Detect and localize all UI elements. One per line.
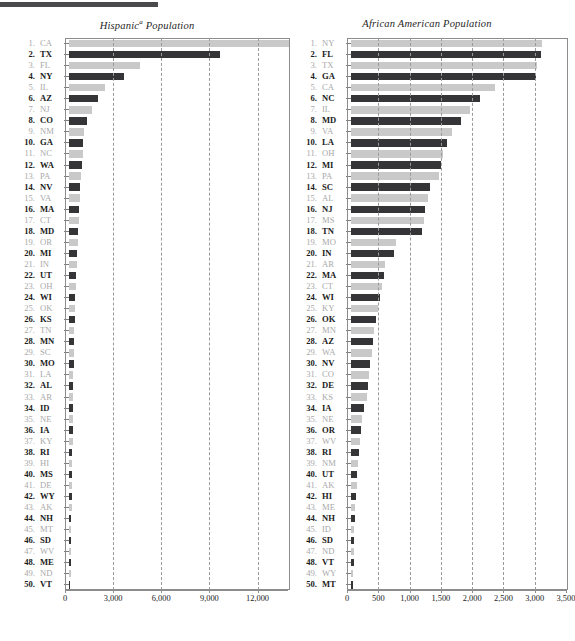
bar-row-rank: 45. — [301, 525, 317, 534]
bar-row-rank: 33. — [301, 393, 317, 402]
bar-row: 35.NE — [288, 414, 566, 425]
bar-row-rank: 7. — [19, 105, 35, 114]
bar-cell — [69, 579, 288, 590]
bar — [351, 493, 356, 500]
bar-row-label: 37.KY — [6, 437, 64, 446]
bar-row-state: MA — [35, 205, 60, 214]
bar-row-rank: 11. — [19, 149, 35, 158]
bar-cell — [351, 126, 566, 137]
bar-row-rank: 11. — [301, 149, 317, 158]
bar-cell — [351, 137, 566, 148]
bar-row-rank: 22. — [301, 271, 317, 280]
bar-row-state: HI — [35, 459, 60, 468]
bar-row: 10.LA — [288, 137, 566, 148]
bar — [69, 194, 80, 201]
bar-row-state: VA — [35, 194, 60, 203]
bar-row-label: 14.NV — [6, 183, 64, 192]
bar — [69, 559, 71, 566]
bar-row-label: 49.WY — [288, 569, 346, 578]
bar-row-rank: 24. — [19, 293, 35, 302]
bar-cell — [69, 115, 288, 126]
bar-row-rank: 48. — [301, 558, 317, 567]
bar-row-label: 32.AL — [6, 381, 64, 390]
x-tick — [535, 590, 536, 593]
bar-cell — [351, 82, 566, 93]
bar-row: 16.NJ — [288, 204, 566, 215]
bar-row-rank: 42. — [301, 492, 317, 501]
bar-row-state: WY — [35, 492, 60, 501]
bar-row-state: LA — [35, 370, 60, 379]
bar-row-label: 31.LA — [6, 370, 64, 379]
bar-row-rank: 46. — [19, 536, 35, 545]
bar-row-label: 21.AR — [288, 260, 346, 269]
bar-row-state: KY — [317, 304, 342, 313]
bar-row-state: MS — [35, 470, 60, 479]
bar-row: 24.WI — [288, 292, 566, 303]
bar-row-rank: 5. — [301, 83, 317, 92]
bar — [69, 51, 220, 58]
bar-cell — [351, 380, 566, 391]
bar — [351, 161, 441, 168]
bar-row-label: 35.NE — [288, 415, 346, 424]
bar-row: 27.TN — [6, 325, 288, 336]
bar-row: 35.NE — [6, 414, 288, 425]
bar-row: 14.NV — [6, 182, 288, 193]
bar-row: 33.KS — [288, 392, 566, 403]
bar — [351, 360, 370, 367]
bar-row-label: 4.GA — [288, 72, 346, 81]
bar-cell — [69, 336, 288, 347]
bar-row-label: 8.MD — [288, 116, 346, 125]
bar-row-label: 5.CA — [288, 83, 346, 92]
bar — [69, 349, 74, 356]
bar-cell — [351, 38, 566, 49]
bar — [69, 449, 72, 456]
bar — [351, 581, 353, 588]
bar-row-label: 33.KS — [288, 393, 346, 402]
bar-row-label: 2.FL — [288, 50, 346, 59]
x-tick — [258, 590, 259, 593]
bar-row-label: 27.MN — [288, 326, 346, 335]
bar-row-label: 24.WI — [288, 293, 346, 302]
bar-row: 12.WA — [6, 160, 288, 171]
bar-cell — [351, 491, 566, 502]
bar-row-state: IN — [317, 249, 342, 258]
bar-row: 3.FL — [6, 60, 288, 71]
bar-row-label: 40.MS — [6, 470, 64, 479]
bar — [351, 438, 360, 445]
bar — [69, 62, 140, 69]
bar-row-rank: 27. — [19, 326, 35, 335]
bar — [69, 294, 75, 301]
bar-row-label: 16.MA — [6, 205, 64, 214]
bar-row-rank: 30. — [19, 359, 35, 368]
bar-row: 11.OH — [288, 148, 566, 159]
bar — [69, 415, 73, 422]
bar-row-label: 23.OH — [6, 282, 64, 291]
bar-row-rank: 34. — [301, 404, 317, 413]
bar-row-rank: 17. — [19, 216, 35, 225]
bar-row: 19.OR — [6, 237, 288, 248]
bar-row-rank: 3. — [19, 61, 35, 70]
bar — [69, 250, 77, 257]
bar — [351, 548, 354, 555]
bar-row: 27.MN — [288, 325, 566, 336]
bar-row-rank: 20. — [301, 249, 317, 258]
bar-cell — [69, 160, 288, 171]
bar-cell — [69, 281, 288, 292]
bar-cell — [351, 447, 566, 458]
bar-cell — [69, 491, 288, 502]
bar — [69, 272, 76, 279]
bar-row: 42.WY — [6, 491, 288, 502]
bar-row-label: 47.WV — [6, 547, 64, 556]
bar-rows-african-american: 1.NY2.FL3.TX4.GA5.CA6.NC7.IL8.MD9.VA10.L… — [288, 38, 566, 590]
bar-row-rank: 21. — [301, 260, 317, 269]
bar-row-label: 14.SC — [288, 183, 346, 192]
bar-row-label: 9.VA — [288, 127, 346, 136]
bar-row: 37.WV — [288, 436, 566, 447]
bar — [69, 161, 82, 168]
bar-row-state: NM — [317, 459, 342, 468]
bar-row-label: 34.ID — [6, 404, 64, 413]
bar — [351, 40, 542, 47]
bar-row-label: 41.AK — [288, 481, 346, 490]
bar-row: 50.MT — [288, 579, 566, 590]
bar-row-rank: 16. — [301, 205, 317, 214]
